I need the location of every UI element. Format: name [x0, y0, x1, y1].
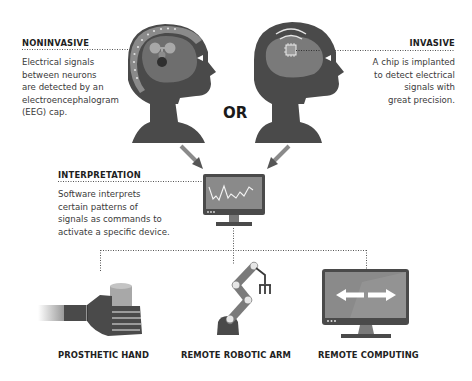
prosthetic-hand-icon: [38, 283, 142, 336]
dotted-connectors: [22, 50, 455, 273]
output-label-remote-computing: REMOTE COMPUTING: [318, 350, 419, 360]
arrow-left-to-monitor: [181, 146, 203, 169]
output-label-robotic-arm: REMOTE ROBOTIC ARM: [181, 350, 291, 360]
computer-monitor-icon: [322, 269, 409, 338]
diagram-graphics: [0, 0, 472, 381]
noninvasive-head-icon: [128, 24, 216, 143]
robotic-arm-icon: [217, 263, 271, 336]
arrow-right-to-monitor: [267, 146, 289, 169]
output-label-prosthetic-hand: PROSTHETIC HAND: [58, 350, 149, 360]
invasive-head-icon: [254, 22, 344, 143]
interpretation-monitor-icon: [203, 174, 265, 226]
